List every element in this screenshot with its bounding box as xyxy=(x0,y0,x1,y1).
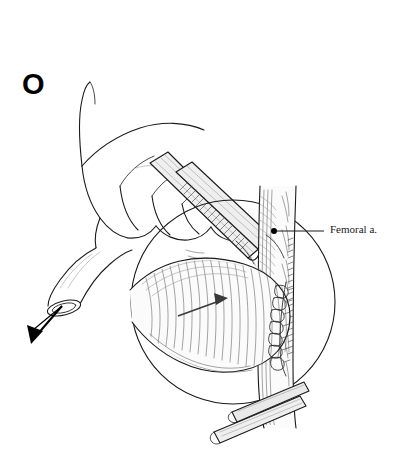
surgical-illustration-figure: O Femoral a. xyxy=(0,0,402,468)
downward-traction-arrow xyxy=(27,306,62,344)
femoral-artery-label: Femoral a. xyxy=(330,224,377,235)
graft-anastomosis-limb xyxy=(130,257,290,372)
panel-label: O xyxy=(22,70,45,99)
